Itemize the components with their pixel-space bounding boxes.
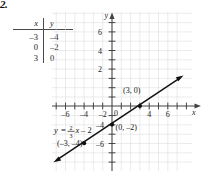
equation-variable: x: [75, 125, 80, 135]
y-tick-label: –6: [95, 140, 104, 149]
x-axis: [52, 103, 201, 110]
y-tick-label: 2: [98, 65, 102, 74]
equation-denominator: 3: [70, 133, 73, 139]
point-label-0-neg2: (0, –2): [116, 123, 138, 132]
equation-label: y = 2 3 x – 2: [53, 125, 92, 139]
x-tick-label: –2: [98, 110, 107, 119]
table-cell-x: –3: [13, 30, 44, 43]
y-axis: [109, 13, 116, 172]
y-tick-label: 4: [98, 47, 102, 56]
plotted-line: [54, 76, 184, 163]
table-cell-x: 3: [13, 53, 44, 64]
coordinate-graph: y x 0 6 4 2 –4 –6 –6 –4 –2 4 6 (3, 0) (0…: [52, 8, 202, 173]
equation-lhs: y: [53, 125, 58, 135]
x-tick-label: –6: [61, 110, 70, 119]
point-label-3-0: (3, 0): [123, 86, 141, 95]
equation-equals: =: [61, 125, 66, 135]
equation-constant: – 2: [80, 125, 92, 135]
x-tick-label: 6: [166, 110, 170, 119]
problem-number: 2.: [0, 0, 7, 10]
plot-point-neg3-neg4: [82, 141, 86, 145]
y-axis-label: y: [104, 11, 109, 20]
point-label-neg3-neg4: (–3, –4): [57, 139, 83, 148]
y-tick-label: 6: [98, 28, 102, 37]
origin-label: 0: [114, 109, 118, 118]
plot-point-3-0: [138, 104, 142, 108]
x-tick-label: 4: [147, 110, 151, 119]
x-tick-label: –4: [79, 110, 88, 119]
table-header-x: x: [13, 18, 44, 30]
x-axis-label: x: [191, 108, 196, 117]
equation-numerator: 2: [70, 125, 73, 131]
table-cell-x: 0: [13, 42, 44, 53]
plot-point-0-neg2: [110, 123, 114, 127]
